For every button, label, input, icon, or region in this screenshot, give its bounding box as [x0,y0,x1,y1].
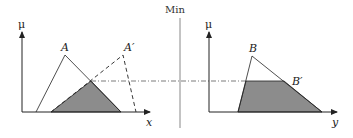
set-a-prime-label: A′ [123,41,135,54]
fuzzy-inference-diagram: Min μ x A A′ μ y B B′ [0,0,353,138]
set-b-label: B [248,42,257,55]
right-panel: μ y B B′ [205,18,339,129]
clipped-output-region [238,81,322,112]
left-panel: μ x A A′ [18,18,153,129]
right-mu-label: μ [205,18,212,31]
set-a-label: A [60,41,69,54]
set-b-prime-label: B′ [291,75,303,88]
left-mu-label: μ [18,18,25,31]
intersection-region [51,81,121,112]
right-y-label: y [331,116,339,129]
title-min: Min [165,4,185,15]
left-x-label: x [146,116,153,129]
